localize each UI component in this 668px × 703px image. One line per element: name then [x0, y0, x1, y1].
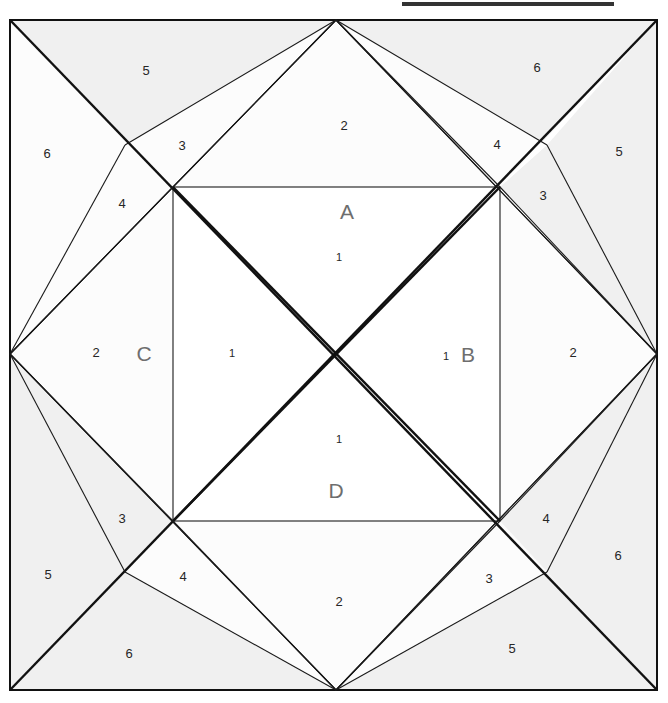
region-number: 3 — [539, 188, 546, 203]
region-number: 3 — [485, 571, 492, 586]
region-number: 6 — [125, 646, 132, 661]
region-number: 5 — [508, 641, 515, 656]
region-number: 6 — [533, 60, 540, 75]
region-number: 2 — [569, 345, 576, 360]
region-number: 4 — [542, 511, 549, 526]
region-number: 6 — [614, 548, 621, 563]
region-number: 2 — [92, 345, 99, 360]
diagram-stage: A B C D 1 1 1 1 2 2 2 2 3 3 3 3 4 4 4 4 … — [0, 0, 668, 703]
region-number: 3 — [178, 138, 185, 153]
region-label-C: C — [136, 342, 151, 365]
region-number: 5 — [44, 567, 51, 582]
region-number: 4 — [118, 196, 125, 211]
region-number: 4 — [179, 569, 186, 584]
region-label-B: B — [461, 343, 475, 366]
region-number: 1 — [336, 251, 342, 263]
region-label-A: A — [340, 200, 354, 223]
region-number: 3 — [118, 511, 125, 526]
region-number: 2 — [335, 594, 342, 609]
geometric-figure: A B C D 1 1 1 1 2 2 2 2 3 3 3 3 4 4 4 4 … — [0, 0, 668, 703]
region-number: 5 — [615, 144, 622, 159]
region-number: 5 — [142, 63, 149, 78]
region-number: 1 — [443, 350, 449, 362]
region-number: 1 — [336, 433, 342, 445]
region-number: 4 — [493, 137, 500, 152]
region-number: 6 — [43, 146, 50, 161]
region-number: 2 — [340, 118, 347, 133]
region-label-D: D — [328, 479, 343, 502]
region-number: 1 — [229, 347, 235, 359]
